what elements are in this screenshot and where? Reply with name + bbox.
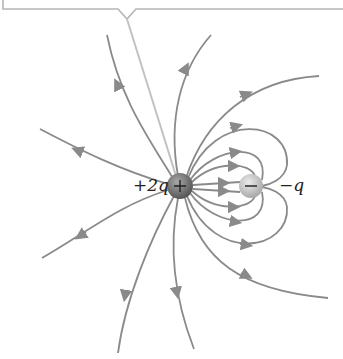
positive-charge-label: +2q [133,175,169,195]
callout-bracket [3,0,343,19]
callout-pointer-line [127,19,176,176]
negative-charge-label: −q [279,175,304,195]
